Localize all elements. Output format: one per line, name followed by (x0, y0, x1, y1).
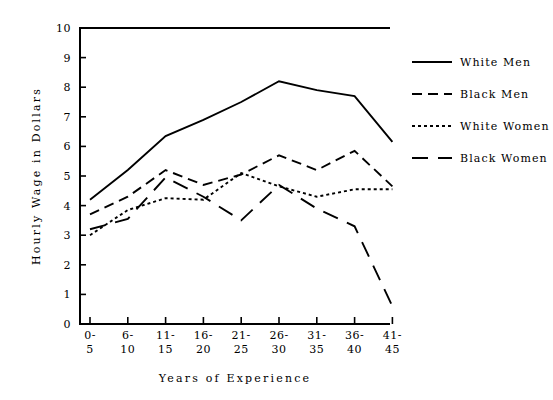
data-series-group (90, 81, 392, 306)
y-tick-label: 1 (64, 288, 72, 301)
x-tick-label-start: 6- (122, 329, 134, 342)
chart-figure: 012345678910 0-56-1011-1516-2021-2526-30… (0, 0, 553, 400)
y-axis: 012345678910 (56, 22, 86, 331)
y-tick-label: 6 (64, 140, 72, 153)
legend-label-black-women: Black Women (460, 152, 548, 165)
x-tick-label-start: 21- (232, 329, 251, 342)
y-axis-title: Hourly Wage in Dollars (30, 87, 43, 265)
series-line-white-women (90, 173, 392, 235)
x-axis-title-text: Years of Experience (158, 372, 312, 385)
x-tick-label-end: 5 (86, 343, 94, 356)
y-axis-title-text: Hourly Wage in Dollars (30, 87, 43, 265)
series-line-white-men (90, 81, 392, 199)
x-tick-label-start: 0- (84, 329, 96, 342)
x-tick-label-end: 40 (347, 343, 362, 356)
y-tick-label: 8 (64, 81, 72, 94)
legend-label-black-men: Black Men (460, 88, 529, 101)
x-tick-label-end: 20 (196, 343, 211, 356)
y-tick-label: 10 (56, 22, 71, 35)
y-tick-label: 0 (64, 318, 72, 331)
x-tick-label-end: 45 (385, 343, 400, 356)
x-tick-label-end: 30 (272, 343, 287, 356)
x-tick-label-start: 16- (194, 329, 213, 342)
x-axis: 0-56-1011-1516-2021-2526-3031-3536-4041-… (84, 317, 402, 356)
series-line-black-men (90, 151, 392, 215)
y-tick-label: 7 (64, 111, 72, 124)
y-tick-label: 5 (64, 170, 72, 183)
chart-legend: White MenBlack MenWhite WomenBlack Women (412, 56, 550, 165)
y-tick-label: 2 (64, 259, 72, 272)
series-line-black-women (90, 177, 392, 306)
x-tick-label-start: 26- (269, 329, 288, 342)
x-tick-label-start: 41- (383, 329, 402, 342)
wage-line-chart: 012345678910 0-56-1011-1516-2021-2526-30… (0, 0, 553, 400)
y-tick-label: 9 (64, 52, 72, 65)
x-tick-label-end: 10 (120, 343, 135, 356)
x-tick-label-end: 35 (309, 343, 324, 356)
legend-label-white-men: White Men (460, 56, 531, 69)
legend-label-white-women: White Women (460, 120, 550, 133)
x-tick-label-end: 25 (234, 343, 249, 356)
y-tick-label: 3 (64, 229, 72, 242)
x-tick-label-start: 31- (307, 329, 326, 342)
x-tick-label-start: 36- (345, 329, 364, 342)
x-tick-label-end: 15 (158, 343, 173, 356)
x-tick-label-start: 11- (156, 329, 175, 342)
y-tick-label: 4 (64, 200, 72, 213)
